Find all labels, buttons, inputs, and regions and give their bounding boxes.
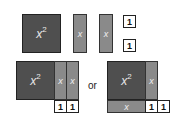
unit-tile-2: 1 — [123, 39, 136, 52]
unit-tile: 1 — [157, 100, 170, 113]
unit-label: 1 — [127, 17, 132, 27]
x-squared-tile: x2 — [107, 61, 146, 100]
unit-tile: 1 — [66, 100, 79, 113]
x-squared-tile: x2 — [16, 61, 55, 100]
x-squared-label: x2 — [30, 73, 40, 88]
unit-label: 1 — [127, 41, 132, 51]
unit-tile-1: 1 — [123, 15, 136, 28]
x-bar-label: x — [58, 76, 63, 86]
x-bar-label: x — [70, 76, 75, 86]
x-bar-tile-2: x — [99, 14, 113, 53]
x-bar-label: x — [124, 102, 129, 112]
unit-label: 1 — [70, 102, 75, 112]
x-bar-label: x — [149, 76, 154, 86]
x-squared-tile: x2 — [22, 14, 61, 53]
x-squared-label: x2 — [36, 26, 46, 41]
x-squared-label: x2 — [121, 73, 131, 88]
unit-label: 1 — [161, 102, 166, 112]
x-bar-label: x — [78, 29, 83, 39]
x-bar-tile-vertical: x — [145, 61, 158, 100]
x-bar-label: x — [104, 29, 109, 39]
unit-label: 1 — [149, 102, 154, 112]
x-bar-tile: x — [66, 61, 79, 100]
x-bar-tile-horizontal: x — [107, 100, 146, 113]
unit-label: 1 — [58, 102, 63, 112]
x-bar-tile-1: x — [73, 14, 87, 53]
or-connector: or — [88, 80, 97, 91]
